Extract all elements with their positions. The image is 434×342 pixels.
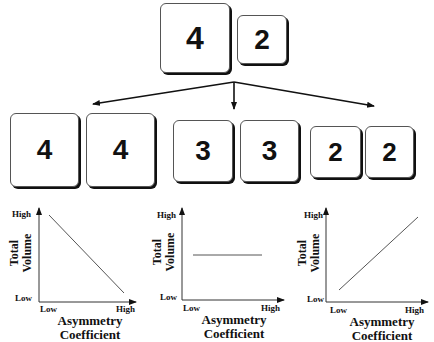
y-axis-title: Total Volume bbox=[151, 227, 177, 277]
x-low-label: Low bbox=[330, 305, 347, 315]
x-axis-title: Asymmetry Coefficient bbox=[50, 314, 130, 342]
outcome-1-card-2: 4 bbox=[86, 113, 155, 187]
arrow-left bbox=[93, 82, 234, 104]
y-high-label: High bbox=[12, 209, 31, 219]
outcome-3-card-2: 2 bbox=[365, 126, 414, 178]
outcome-2-card-1: 3 bbox=[173, 120, 233, 182]
trend-line-decreasing bbox=[49, 215, 124, 293]
y-high-label: High bbox=[304, 210, 323, 220]
chart-2-axes bbox=[182, 208, 284, 300]
y-low-label: Low bbox=[15, 293, 32, 303]
y-low-label: Low bbox=[160, 292, 177, 302]
x-low-label: Low bbox=[183, 303, 200, 313]
outcome-1-card-1: 4 bbox=[10, 113, 79, 187]
outcome-2-card-2: 3 bbox=[240, 120, 299, 182]
trend-line-increasing bbox=[339, 217, 418, 290]
y-axis-title: Total Volume bbox=[296, 228, 322, 278]
card-value: 4 bbox=[37, 134, 53, 166]
y-axis-title: Total Volume bbox=[8, 228, 34, 278]
card-value: 4 bbox=[113, 134, 129, 166]
card-value: 3 bbox=[195, 135, 211, 167]
card-value: 2 bbox=[328, 137, 342, 168]
card-value: 3 bbox=[262, 135, 278, 167]
x-low-label: Low bbox=[40, 304, 57, 314]
x-axis-title: Asymmetry Coefficient bbox=[342, 315, 422, 342]
y-low-label: Low bbox=[307, 294, 324, 304]
chart-1-axes bbox=[39, 208, 136, 302]
y-high-label: High bbox=[157, 210, 176, 220]
chart-3-axes bbox=[326, 208, 428, 302]
arrow-right bbox=[234, 82, 374, 106]
x-axis-title: Asymmetry Coefficient bbox=[194, 313, 274, 341]
card-value: 2 bbox=[382, 137, 396, 168]
outcome-3-card-1: 2 bbox=[310, 126, 361, 178]
